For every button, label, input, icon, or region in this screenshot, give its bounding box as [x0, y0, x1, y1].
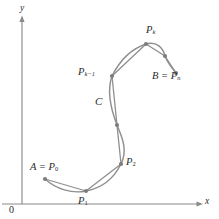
curve-node-pk [144, 42, 148, 46]
label-start-point-text: A = P [30, 161, 55, 172]
curve-node-pmid [115, 123, 119, 127]
curve-c-path [45, 43, 176, 192]
curve-node-p2 [119, 162, 123, 166]
label-end-point-subscript: n [177, 74, 180, 81]
y-axis-label: y [20, 4, 24, 14]
x-axis-arrowhead [197, 201, 204, 206]
inscribed-polygon-path [45, 44, 176, 191]
label-pk-minus-1-subscript: k−1 [84, 70, 95, 77]
label-pk-subscript: k [152, 28, 155, 35]
x-axis-label: x [205, 197, 209, 207]
y-axis-arrowhead [19, 16, 24, 23]
label-p1-subscript: 1 [84, 199, 87, 206]
label-curve-c: C [95, 96, 102, 107]
label-point-p1: P1 [78, 196, 88, 207]
label-start-point-subscript: 0 [55, 165, 58, 172]
label-p2-subscript: 2 [132, 160, 135, 167]
curve-node-group [43, 42, 178, 193]
curve-node-pmid2 [163, 54, 167, 58]
figure-container: y x 0 A = P0 P1 P2 C Pk−1 Pk B = Pn [0, 0, 219, 219]
label-start-point-a-p0: A = P0 [30, 162, 58, 173]
label-point-p2: P2 [126, 157, 136, 168]
curve-node-p0 [43, 177, 47, 181]
label-point-pk-minus-1: Pk−1 [78, 67, 95, 78]
label-end-point-b-pn: B = Pn [152, 71, 180, 82]
curve-node-pk-1 [110, 74, 114, 78]
origin-label: 0 [9, 205, 14, 215]
curve-node-p1 [84, 189, 88, 193]
figure-canvas [0, 0, 219, 219]
label-point-pk: Pk [146, 25, 155, 36]
label-end-point-text: B = P [152, 70, 177, 81]
